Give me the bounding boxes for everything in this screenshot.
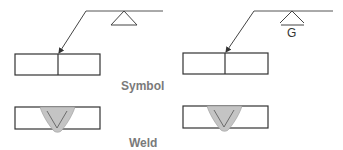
right-weld-cross-section [183, 106, 268, 131]
right-v-groove-symbol-icon [280, 11, 304, 23]
right-arrow-leader [226, 11, 254, 52]
right-weld-symbol [226, 11, 333, 52]
left-v-groove-symbol-icon [111, 11, 137, 25]
finish-letter-label: G [287, 26, 296, 40]
left-weld-symbol [59, 11, 163, 53]
left-symbol-joint [15, 54, 100, 75]
symbol-label: Symbol [121, 79, 164, 93]
weld-label: Weld [129, 136, 157, 150]
left-weld-cross-section [15, 107, 100, 132]
right-symbol-joint [183, 53, 268, 74]
welding-symbol-diagram [0, 0, 343, 150]
left-arrow-leader [59, 11, 86, 53]
